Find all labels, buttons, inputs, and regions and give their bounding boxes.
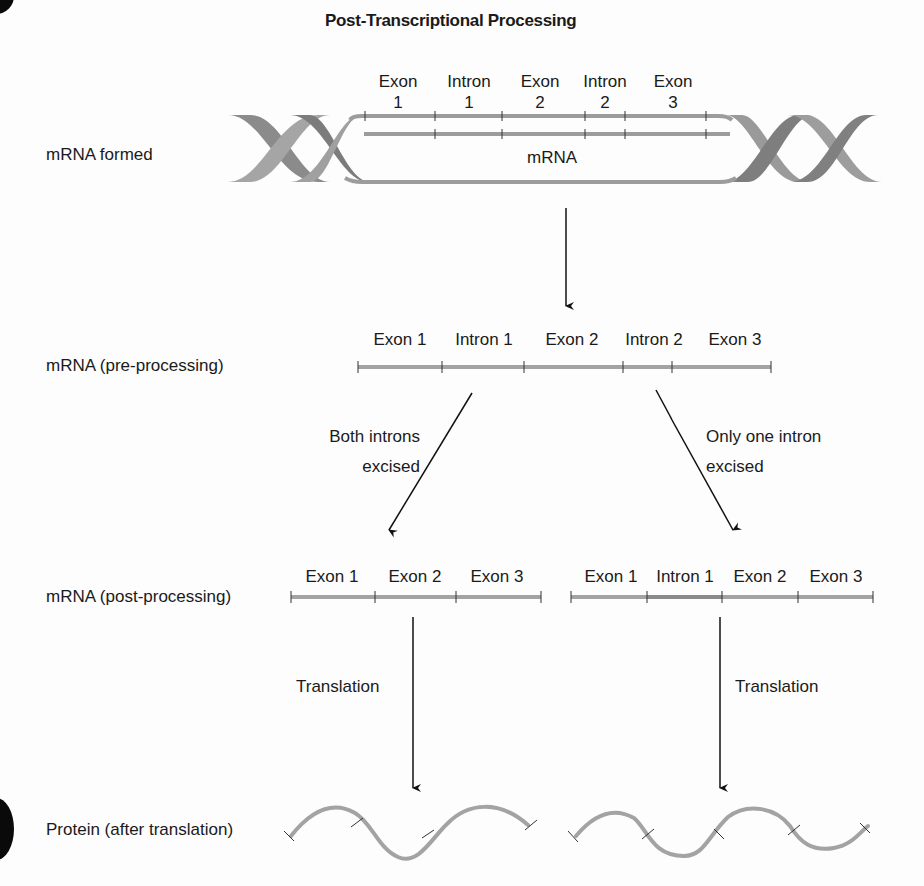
translation-label-right: Translation: [735, 678, 818, 695]
segment-label-exon3: Exon3: [641, 73, 705, 111]
protein-right-icon: [568, 808, 870, 856]
segment-label-exon2: Exon2: [510, 73, 570, 111]
translation-label-left: Translation: [296, 678, 379, 695]
row-label-pre-processing: mRNA (pre-processing): [46, 357, 224, 374]
row-label-mrna-formed: mRNA formed: [46, 146, 153, 163]
row-label-post-processing: mRNA (post-processing): [46, 588, 231, 605]
post-right-exon1: Exon 1: [573, 568, 649, 585]
dna-helix-right-icon: [726, 115, 882, 182]
branch-label-one-intron: Only one intronexcised: [706, 428, 821, 475]
branch-label-both-introns: Both intronsexcised: [305, 428, 420, 475]
post-right-exon2: Exon 2: [722, 568, 798, 585]
dna-helix-left-icon: [228, 115, 370, 182]
pre-segment-exon2: Exon 2: [530, 331, 614, 348]
pre-segment-intron1: Intron 1: [442, 331, 526, 348]
pre-segment-exon3: Exon 3: [693, 331, 777, 348]
post-left-exon1: Exon 1: [292, 568, 372, 585]
segment-label-intron1: Intron1: [436, 73, 502, 111]
pre-segment-exon1: Exon 1: [358, 331, 442, 348]
dna-top-strand: [350, 116, 732, 120]
post-left-exon2: Exon 2: [375, 568, 455, 585]
post-left-exon3: Exon 3: [457, 568, 537, 585]
segment-label-exon1: Exon1: [368, 73, 428, 111]
segment-label-intron2: Intron2: [572, 73, 638, 111]
dna-bottom-strand: [345, 178, 736, 182]
row-label-protein: Protein (after translation): [46, 821, 233, 838]
post-right-intron1: Intron 1: [646, 568, 724, 585]
pre-segment-intron2: Intron 2: [612, 331, 696, 348]
arrow-one-intron: [656, 390, 670, 416]
post-right-exon3: Exon 3: [798, 568, 874, 585]
mrna-label: mRNA: [527, 149, 577, 166]
protein-left-icon: [284, 807, 537, 859]
